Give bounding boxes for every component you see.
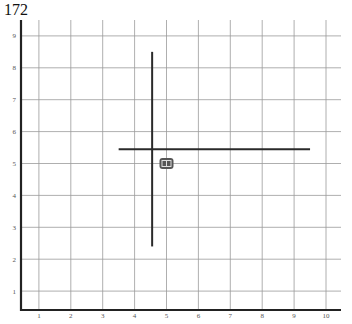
- x-tick-label: 5: [165, 312, 169, 320]
- plot-area: 12345678910123456789: [0, 0, 352, 324]
- x-tick-label: 3: [101, 312, 105, 320]
- y-tick-label: 3: [13, 224, 17, 232]
- y-tick-label: 8: [13, 64, 17, 72]
- x-tick-label: 4: [133, 312, 137, 320]
- x-tick-label: 9: [292, 312, 296, 320]
- y-tick-label: 9: [13, 32, 17, 40]
- robot-icon: [160, 158, 174, 169]
- x-tick-label: 6: [197, 312, 201, 320]
- x-tick-label: 8: [260, 312, 264, 320]
- y-tick-label: 4: [13, 192, 17, 200]
- x-tick-label: 7: [229, 312, 233, 320]
- y-tick-label: 7: [13, 96, 17, 104]
- y-tick-label: 2: [13, 256, 17, 264]
- x-tick-label: 10: [323, 312, 331, 320]
- y-tick-label: 6: [13, 128, 17, 136]
- y-tick-label: 5: [13, 160, 17, 168]
- x-tick-label: 1: [37, 312, 41, 320]
- y-tick-label: 1: [13, 288, 17, 296]
- x-tick-label: 2: [69, 312, 73, 320]
